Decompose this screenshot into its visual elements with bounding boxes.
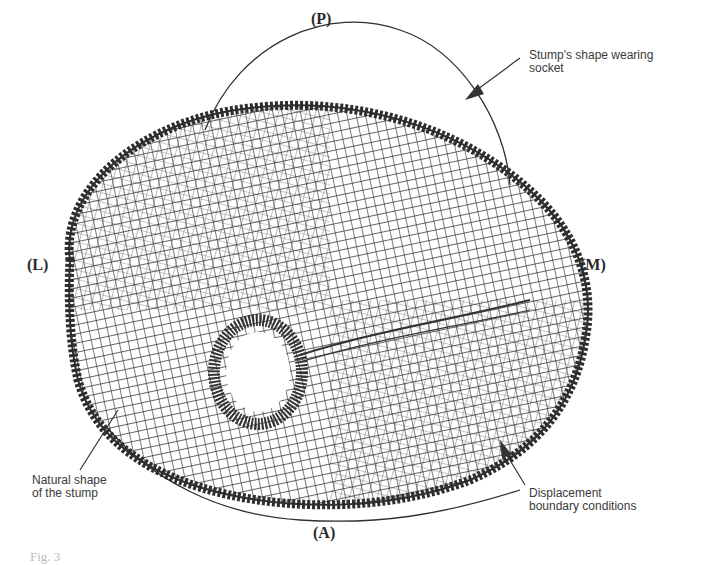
annotation-line: boundary conditions xyxy=(529,500,636,513)
annotation-natural-shape: Natural shape of the stump xyxy=(32,474,107,500)
bone-hole xyxy=(226,332,290,412)
arrow-socket-shape xyxy=(465,58,520,100)
annotation-line: socket xyxy=(529,62,653,75)
fem-mesh xyxy=(50,90,610,530)
label-anterior: (A) xyxy=(313,524,335,542)
annotation-socket-shape: Stump's shape wearing socket xyxy=(529,49,653,75)
annotation-boundary-conditions: Displacement boundary conditions xyxy=(529,487,636,513)
label-lateral: (L) xyxy=(27,256,48,274)
label-medial: (M) xyxy=(580,256,606,274)
figure-caption: Fig. 3 xyxy=(30,549,60,565)
label-posterior: (P) xyxy=(311,10,331,28)
annotation-line: of the stump xyxy=(32,487,107,500)
